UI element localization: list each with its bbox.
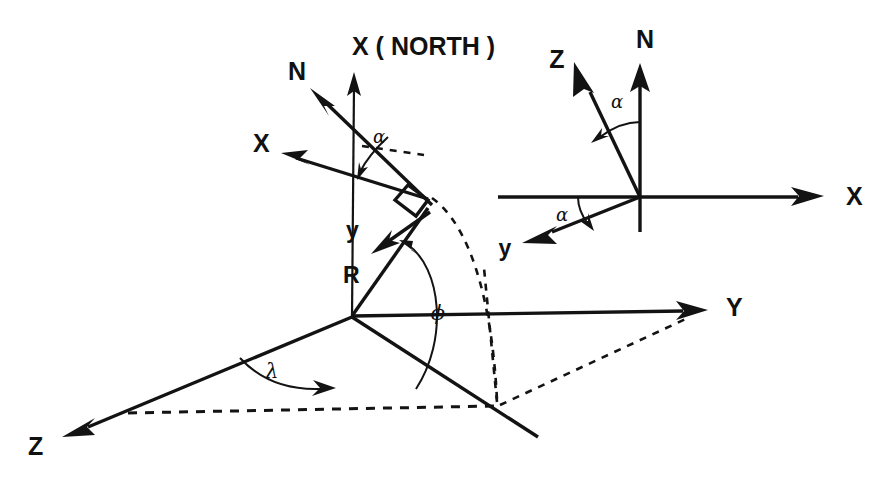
vector-r <box>352 208 428 316</box>
label-n-local: N <box>288 57 306 85</box>
inset-label-y: y <box>499 235 512 261</box>
label-y-axis: Y <box>726 293 743 321</box>
dashed-z-projection <box>128 406 494 413</box>
ground-projection-line <box>352 317 538 437</box>
axis-y <box>352 301 708 320</box>
label-y-local: y <box>346 217 359 243</box>
label-x-north: X ( NORTH ) <box>352 32 495 60</box>
figure-canvas: X ( NORTH ) Y Z N X y R α ϕ λ <box>0 0 891 481</box>
label-phi: ϕ <box>431 301 445 325</box>
inset-angle-arc-alpha-lower <box>578 197 594 231</box>
vector-x-local <box>281 150 428 199</box>
diagram-svg: X ( NORTH ) Y Z N X y R α ϕ λ <box>0 0 891 481</box>
inset-axis-n <box>630 63 650 232</box>
dashed-y-projection <box>500 317 690 405</box>
inset-label-n: N <box>636 25 654 53</box>
main-coordinate-frame: X ( NORTH ) Y Z N X y R α ϕ λ <box>28 32 743 460</box>
inset-local-frame: N Z X y α α <box>498 25 863 261</box>
inset-label-z: Z <box>549 45 564 73</box>
inset-vector-y <box>522 197 640 244</box>
inset-label-alpha-lower: α <box>556 204 568 225</box>
inset-axis-x <box>640 187 824 206</box>
inset-vector-z <box>573 62 640 197</box>
label-r-vector: R <box>343 262 360 288</box>
axis-z <box>62 317 352 437</box>
label-lambda: λ <box>264 359 278 383</box>
label-alpha-main: α <box>373 126 385 147</box>
angle-arc-lambda <box>240 358 336 396</box>
inset-label-x: X <box>846 182 863 210</box>
inset-angle-arc-alpha-upper <box>591 122 640 143</box>
label-x-local: X <box>253 129 270 157</box>
inset-label-alpha-upper: α <box>611 91 623 112</box>
label-z-axis: Z <box>28 432 43 460</box>
